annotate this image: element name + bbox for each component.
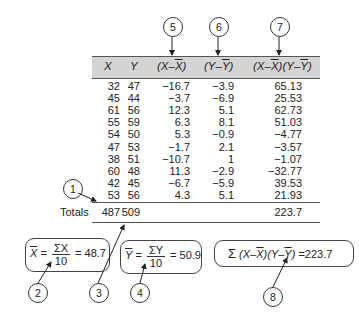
callout-arrows [0,0,359,317]
